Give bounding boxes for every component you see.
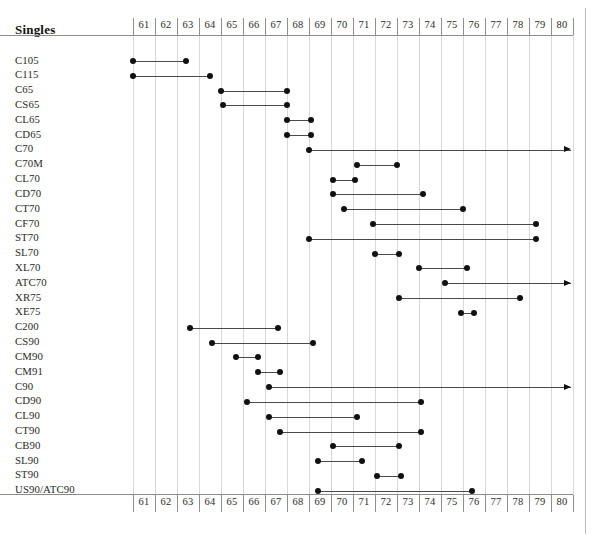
row-label-xl70: XL70 [15,261,41,273]
timeline-bar [333,446,399,447]
timeline-bar [318,491,472,492]
timeline-bar [280,432,421,433]
axis-ticks-bottom: 6162636465666768697071727374757677787980 [133,495,573,512]
axis-tick-label-78: 78 [507,496,529,507]
timeline-end-dot [310,340,316,346]
timeline-start-dot [372,251,378,257]
timeline-bar [333,194,423,195]
timeline-bar [133,61,186,62]
axis-tick-label-65: 65 [221,19,243,30]
timeline-arrow-head [564,384,571,390]
timeline-plot-area: 6162636465666768697071727374757677787980… [133,18,573,512]
timeline-bar [419,268,467,269]
row-label-sl70: SL70 [15,246,39,258]
timeline-end-dot [183,58,189,64]
gridline [507,18,508,512]
row-label-st90: ST90 [15,468,39,480]
timeline-bar [223,105,287,106]
timeline-start-dot [244,399,250,405]
timeline-start-dot [220,102,226,108]
timeline-end-dot [255,354,261,360]
row-label-c90: C90 [15,380,33,392]
axis-tick-label-80: 80 [551,19,573,30]
timeline-start-dot [442,280,448,286]
row-label-ct90: CT90 [15,424,40,436]
timeline-bar [133,76,210,77]
gridline [265,18,266,512]
axis-tick-label-71: 71 [353,496,375,507]
row-label-ct70: CT70 [15,202,40,214]
axis-tick-label-68: 68 [287,19,309,30]
axis-tick-label-80: 80 [551,496,573,507]
timeline-end-dot [284,88,290,94]
timeline-bar [399,298,520,299]
timeline-bar [269,417,357,418]
row-label-sl90: SL90 [15,454,39,466]
timeline-start-dot [330,177,336,183]
timeline-start-dot [396,295,402,301]
row-label-c70: C70 [15,142,33,154]
gridline [441,18,442,512]
timeline-end-dot [517,295,523,301]
timeline-end-dot [396,443,402,449]
axis-tick-label-76: 76 [463,496,485,507]
timeline-start-dot [284,132,290,138]
timeline-start-dot [306,236,312,242]
timeline-start-dot [130,58,136,64]
timeline-bar [318,461,362,462]
timeline-start-dot [277,429,283,435]
axis-tick-label-71: 71 [353,19,375,30]
gridline [375,18,376,512]
gridline [243,18,244,512]
timeline-start-dot [330,443,336,449]
axis-tick-label-62: 62 [155,19,177,30]
timeline-end-dot [352,177,358,183]
gridline [529,18,530,512]
timeline-arrow-head [564,280,571,286]
timeline-bar [221,91,287,92]
row-label-xr75: XR75 [15,291,41,303]
gridline [573,18,574,512]
gridline [133,18,134,512]
timeline-start-dot [330,191,336,197]
axis-tick-label-61: 61 [133,19,155,30]
timeline-start-dot [255,369,261,375]
gridline [331,18,332,512]
timeline-start-dot [315,488,321,494]
row-label-cm91: CM91 [15,365,43,377]
timeline-end-dot [354,414,360,420]
row-label-cl70: CL70 [15,172,40,184]
timeline-end-dot [277,369,283,375]
axis-tick-separator [573,18,574,35]
axis-tick-separator [573,495,574,512]
row-label-cd90: CD90 [15,394,41,406]
timeline-start-dot [233,354,239,360]
axis-tick-label-67: 67 [265,19,287,30]
axis-ticks-top: 6162636465666768697071727374757677787980 [133,18,573,35]
timeline-end-dot [308,117,314,123]
chart-page: Singles C105C115C65CS65CL65CD65C70C70MCL… [0,0,593,542]
timeline-end-dot [207,73,213,79]
axis-rule-top [0,35,573,36]
row-label-cd65: CD65 [15,128,41,140]
timeline-end-dot [533,221,539,227]
timeline-start-dot [218,88,224,94]
timeline-start-dot [306,147,312,153]
row-label-c105: C105 [15,54,39,66]
timeline-start-dot [284,117,290,123]
gridline [353,18,354,512]
timeline-end-dot [464,265,470,271]
row-label-c200: C200 [15,320,39,332]
axis-tick-label-70: 70 [331,496,353,507]
axis-tick-label-64: 64 [199,496,221,507]
axis-tick-label-63: 63 [177,496,199,507]
row-label-cs90: CS90 [15,335,39,347]
timeline-bar [344,209,463,210]
row-label-cl90: CL90 [15,409,40,421]
axis-tick-label-73: 73 [397,496,419,507]
timeline-start-dot [266,414,272,420]
timeline-start-dot [370,221,376,227]
axis-tick-label-66: 66 [243,19,265,30]
timeline-bar [309,150,571,151]
timeline-start-dot [187,325,193,331]
